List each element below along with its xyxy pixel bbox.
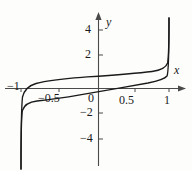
origin-label-0: 0 bbox=[88, 92, 94, 104]
y-tick-label-minus-2: −2 bbox=[80, 106, 93, 118]
x-axis-label: x bbox=[174, 64, 179, 76]
graph-figure: 4 2 0 −2 −4 −1 −0.5 0.5 1 y x bbox=[0, 0, 192, 171]
x-tick-label-1: 1 bbox=[164, 94, 170, 106]
plot-canvas bbox=[0, 0, 192, 171]
y-tick-label-4: 4 bbox=[85, 23, 91, 35]
y-axis-arrow bbox=[95, 12, 101, 20]
x-tick-label-05: 0.5 bbox=[119, 94, 134, 106]
y-tick-label-minus-4: −4 bbox=[80, 132, 93, 144]
x-tick-label-minus-1: −1 bbox=[7, 80, 20, 92]
tick-marks bbox=[21, 30, 169, 139]
x-tick-label-minus-05: −0.5 bbox=[38, 92, 60, 104]
x-axis bbox=[5, 85, 186, 91]
y-tick-label-2: 2 bbox=[85, 48, 91, 60]
y-axis-label: y bbox=[106, 16, 111, 28]
x-axis-arrow bbox=[178, 85, 186, 91]
